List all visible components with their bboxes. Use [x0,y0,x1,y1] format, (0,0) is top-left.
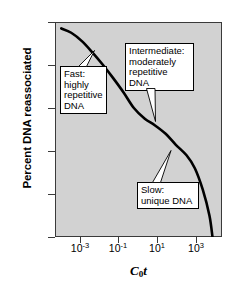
x-tick-label-1e-1: 10-1 [96,241,140,254]
annotation-intermediate: Intermediate: moderately repetitive DNA [125,43,194,91]
y-axis-title: Percent DNA reassociated [21,18,33,218]
x-axis-title-c: C [130,263,139,278]
annotation-slow: Slow: unique DNA [137,182,199,209]
y-tick-mark-0 [48,22,55,23]
cot-curve-figure: Percent DNA reassociated 0 20 40 60 80 1… [0,0,235,288]
x-tick-exponent-1e-1: -1 [121,241,128,250]
x-tick-label-1e1: 101 [135,241,179,254]
x-tick-label-1e3: 103 [174,241,218,254]
x-tick-exponent-1e3: 3 [200,241,204,250]
x-tick-mantissa-1e-3: 10 [71,242,83,254]
x-tick-exponent-1e1: 1 [161,241,165,250]
y-tick-mark-40 [48,108,55,109]
x-tick-exponent-1e-3: -3 [83,241,90,250]
annotation-fast: Fast: highly repetitive DNA [60,66,107,114]
x-tick-mantissa-1e1: 10 [149,242,161,254]
x-tick-mantissa-1e3: 10 [188,242,200,254]
y-tick-mark-100 [48,237,55,238]
y-tick-mark-20 [48,65,55,66]
y-tick-mark-60 [48,151,55,152]
x-axis-title: C0t [55,263,222,279]
x-axis-title-t: t [143,263,147,278]
x-tick-mantissa-1e-1: 10 [109,242,121,254]
y-tick-mark-80 [48,194,55,195]
